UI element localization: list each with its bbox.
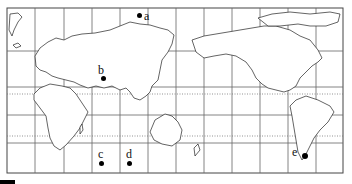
point-label-b: b bbox=[98, 64, 104, 76]
point-marker-a bbox=[137, 13, 142, 18]
point-marker-b bbox=[101, 76, 106, 81]
point-marker-c bbox=[99, 161, 104, 166]
point-label-c: c bbox=[98, 148, 103, 160]
world-map bbox=[0, 0, 352, 184]
point-label-e: e bbox=[292, 146, 297, 158]
scale-bar bbox=[0, 180, 15, 184]
point-marker-d bbox=[127, 161, 132, 166]
point-label-d: d bbox=[126, 148, 132, 160]
point-marker-e bbox=[302, 153, 308, 159]
point-label-a: a bbox=[144, 10, 149, 22]
